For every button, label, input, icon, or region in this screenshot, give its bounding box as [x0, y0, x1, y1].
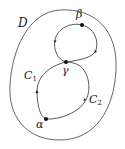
point-alpha — [44, 117, 48, 121]
c2-label: C2 — [89, 93, 102, 107]
region-label: D — [17, 16, 28, 30]
beta-label: β — [75, 8, 82, 21]
alpha-label: α — [36, 118, 44, 131]
arrow-upper-left-icon — [54, 41, 57, 44]
point-beta — [80, 23, 84, 27]
gamma-label: γ — [62, 64, 69, 77]
upper-loop — [55, 24, 97, 62]
c1-label: C1 — [24, 69, 37, 83]
diagram-canvas: D β γ α C1 C2 — [0, 0, 125, 149]
arrow-c1-icon — [35, 90, 38, 93]
